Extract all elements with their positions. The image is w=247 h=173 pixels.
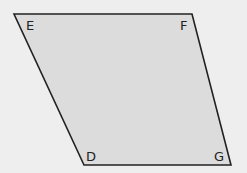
parallelogram-diagram: E F D G: [0, 0, 247, 173]
vertex-label-g: G: [214, 149, 224, 164]
parallelogram-shape: [14, 14, 231, 165]
vertex-label-d: D: [86, 149, 96, 164]
vertex-label-e: E: [26, 18, 34, 33]
vertex-label-f: F: [180, 18, 187, 33]
